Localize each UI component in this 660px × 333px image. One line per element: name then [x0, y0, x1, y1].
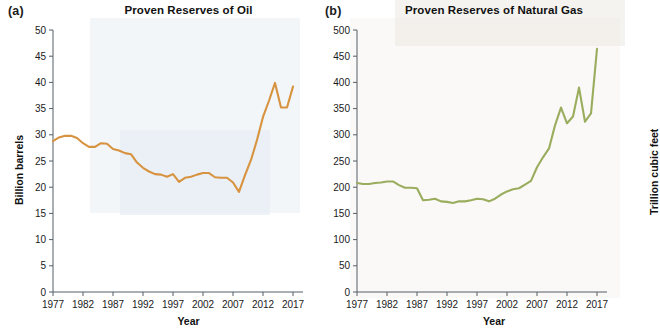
- y-tick-label: 50: [339, 260, 351, 271]
- y-tick-label: 450: [333, 51, 350, 62]
- x-tick-label: 2012: [556, 299, 579, 310]
- x-tick-label: 2017: [282, 299, 305, 310]
- x-tick-label: 2012: [252, 299, 275, 310]
- x-axis-label-oil: Year: [0, 315, 347, 327]
- x-tick-label: 2007: [526, 299, 549, 310]
- y-tick-label: 45: [35, 51, 47, 62]
- y-tick-label: 50: [35, 25, 47, 36]
- y-axis-label-natural-gas: Trillion cubic feet: [648, 129, 660, 215]
- y-tick-label: 0: [40, 287, 46, 298]
- y-tick-label: 200: [333, 182, 350, 193]
- x-tick-label: 2002: [192, 299, 215, 310]
- y-tick-label: 25: [35, 156, 47, 167]
- y-tick-label: 30: [35, 129, 47, 140]
- chart-canvas-natural-gas: 0501001502002503003504004505001977198219…: [317, 0, 635, 333]
- y-tick-label: 20: [35, 182, 47, 193]
- y-tick-label: 15: [35, 208, 47, 219]
- x-tick-label: 1982: [72, 299, 95, 310]
- x-tick-label: 1987: [102, 299, 125, 310]
- chart-canvas-oil: 0510152025303540455019771982198719921997…: [0, 0, 317, 333]
- x-tick-label: 1977: [42, 299, 65, 310]
- x-tick-label: 1982: [376, 299, 399, 310]
- y-tick-label: 40: [35, 77, 47, 88]
- y-tick-label: 0: [344, 287, 350, 298]
- x-tick-label: 1987: [406, 299, 429, 310]
- y-tick-label: 500: [333, 25, 350, 36]
- x-tick-label: 1977: [346, 299, 369, 310]
- chart-panel-natural-gas: (b) Proven Reserves of Natural Gas Trill…: [317, 0, 635, 333]
- x-tick-label: 1997: [466, 299, 489, 310]
- y-tick-label: 350: [333, 103, 350, 114]
- chart-panel-oil: (a) Proven Reserves of Oil Billion barre…: [0, 0, 317, 333]
- y-tick-label: 10: [35, 234, 47, 245]
- x-tick-label: 2007: [222, 299, 245, 310]
- y-tick-label: 250: [333, 156, 350, 167]
- x-tick-label: 2002: [496, 299, 519, 310]
- x-tick-label: 1992: [132, 299, 155, 310]
- y-tick-label: 5: [40, 260, 46, 271]
- x-tick-label: 1992: [436, 299, 459, 310]
- data-series-line: [53, 83, 293, 192]
- x-axis-label-natural-gas: Year: [317, 315, 653, 327]
- y-tick-label: 150: [333, 208, 350, 219]
- data-series-line: [357, 49, 597, 203]
- y-tick-label: 35: [35, 103, 47, 114]
- x-tick-label: 2017: [586, 299, 609, 310]
- y-tick-label: 400: [333, 77, 350, 88]
- x-tick-label: 1997: [162, 299, 185, 310]
- y-tick-label: 100: [333, 234, 350, 245]
- y-tick-label: 300: [333, 129, 350, 140]
